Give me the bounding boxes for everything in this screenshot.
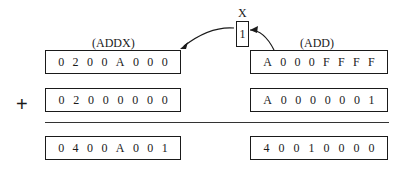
hex-digit: 0 (87, 141, 93, 156)
hex-digit: 0 (133, 141, 139, 156)
hex-digit: 0 (162, 93, 168, 108)
hex-digit: 0 (147, 141, 153, 156)
hex-digit: F (353, 55, 360, 70)
hex-digit: 0 (339, 141, 345, 156)
hex-digit: 0 (309, 55, 315, 70)
hex-digit: 2 (73, 55, 79, 70)
hex-digit: F (338, 55, 345, 70)
hex-digit: 0 (58, 141, 64, 156)
hex-digit: 2 (73, 93, 79, 108)
hex-digit: 0 (294, 141, 300, 156)
hex-digit: 0 (354, 141, 360, 156)
hex-digit: 0 (354, 93, 360, 108)
hex-digit: 0 (295, 93, 301, 108)
add-result: 40010000 (250, 136, 388, 160)
hex-digit: 1 (369, 93, 375, 108)
hex-digit: 0 (162, 55, 168, 70)
hex-digit: A (263, 55, 272, 70)
hex-digit: A (263, 93, 272, 108)
plus-operator: + (16, 93, 28, 116)
hex-digit: 0 (58, 55, 64, 70)
add-label: (ADD) (300, 36, 334, 51)
hex-digit: 0 (310, 93, 316, 108)
hex-digit: 0 (58, 93, 64, 108)
hex-digit: 0 (324, 141, 330, 156)
hex-digit: 0 (88, 93, 94, 108)
hex-digit: 0 (87, 55, 93, 70)
hex-digit: A (116, 141, 125, 156)
hex-digit: 0 (133, 55, 139, 70)
hex-digit: 0 (279, 141, 285, 156)
hex-digit: A (116, 55, 125, 70)
hex-digit: 0 (369, 141, 375, 156)
add-operand2: A0000001 (250, 88, 388, 112)
hex-digit: 0 (339, 93, 345, 108)
sum-divider (45, 122, 389, 123)
hex-digit: 0 (101, 141, 107, 156)
hex-digit: 1 (162, 141, 168, 156)
hex-digit: 0 (147, 55, 153, 70)
hex-digit: 0 (294, 55, 300, 70)
addx-operand1: 0200A000 (45, 50, 181, 74)
hex-digit: 0 (103, 93, 109, 108)
hex-digit: F (368, 55, 375, 70)
addx-operand2: 02000000 (45, 88, 181, 112)
hex-digit: 0 (281, 93, 287, 108)
hex-digit: 0 (280, 55, 286, 70)
addx-result: 0400A001 (45, 136, 181, 160)
hex-digit: F (323, 55, 330, 70)
hex-digit: 1 (309, 141, 315, 156)
hex-digit: 0 (325, 93, 331, 108)
hex-digit: 0 (101, 55, 107, 70)
add-operand1: A000FFFF (250, 50, 388, 74)
hex-digit: 0 (117, 93, 123, 108)
hex-digit: 4 (73, 141, 79, 156)
hex-digit: 4 (264, 141, 270, 156)
arrow-icon (170, 20, 250, 60)
x-flag-label: X (238, 6, 247, 21)
hex-digit: 0 (132, 93, 138, 108)
hex-digit: 0 (147, 93, 153, 108)
addx-label: (ADDX) (92, 36, 135, 51)
